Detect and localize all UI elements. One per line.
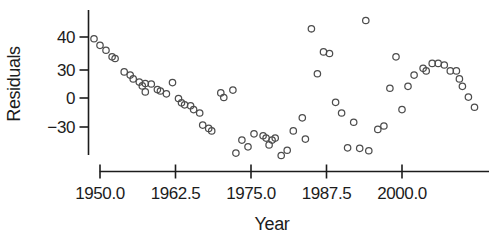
data-point	[169, 79, 175, 85]
data-point	[332, 99, 338, 105]
data-point	[465, 94, 471, 100]
data-point	[338, 110, 344, 116]
data-point	[163, 91, 169, 97]
data-point	[197, 110, 203, 116]
residuals-scatter-figure: Residuals Year 40300−301950.01962.51975.…	[0, 0, 493, 249]
data-point	[405, 83, 411, 89]
data-point	[91, 36, 97, 42]
data-point	[284, 147, 290, 153]
data-point	[366, 148, 372, 154]
data-point	[302, 136, 308, 142]
data-point	[230, 87, 236, 93]
data-point	[233, 150, 239, 156]
x-tick-label: 2000.0	[377, 184, 427, 203]
data-point	[441, 62, 447, 68]
data-point	[142, 89, 148, 95]
y-tick-label: 30	[57, 61, 75, 80]
y-tick-label: −30	[47, 118, 75, 137]
data-point	[393, 54, 399, 60]
data-point	[245, 144, 251, 150]
data-point	[399, 106, 405, 112]
data-point	[299, 115, 305, 121]
data-point	[375, 126, 381, 132]
data-point	[363, 17, 369, 23]
data-point	[344, 145, 350, 151]
data-point	[200, 122, 206, 128]
y-tick-label: 40	[57, 28, 75, 47]
plot-svg: Residuals Year 40300−301950.01962.51975.…	[0, 0, 493, 249]
data-point	[121, 69, 127, 75]
x-tick-label: 1975.0	[226, 184, 276, 203]
plot-content: 40300−301950.01962.51975.01987.52000.0	[47, 10, 489, 203]
data-point	[97, 42, 103, 48]
data-point	[456, 76, 462, 82]
data-point	[308, 26, 314, 32]
x-tick-label: 1950.0	[75, 184, 125, 203]
data-point	[381, 123, 387, 129]
data-point	[278, 152, 284, 158]
data-point	[387, 85, 393, 91]
data-point	[326, 50, 332, 56]
data-point	[459, 83, 465, 89]
data-point	[103, 47, 109, 53]
data-point	[239, 137, 245, 143]
data-point	[314, 71, 320, 77]
data-point	[411, 72, 417, 78]
data-point	[357, 145, 363, 151]
x-axis-title: Year	[255, 214, 290, 234]
y-tick-label: 0	[66, 89, 75, 108]
data-point	[447, 68, 453, 74]
data-point	[351, 119, 357, 125]
x-tick-label: 1962.5	[151, 184, 201, 203]
data-point	[251, 131, 257, 137]
y-axis-title: Residuals	[4, 46, 24, 122]
data-point	[471, 104, 477, 110]
data-point	[290, 128, 296, 134]
data-point	[453, 68, 459, 74]
x-tick-label: 1987.5	[302, 184, 352, 203]
